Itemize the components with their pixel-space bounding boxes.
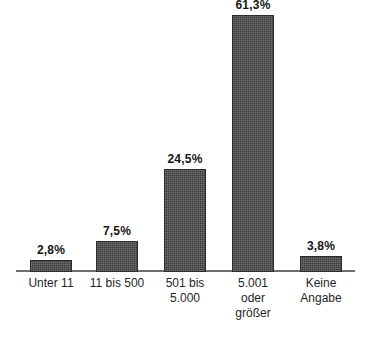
bar-value-label: 3,8% bbox=[290, 239, 352, 253]
category-label-line: Keine bbox=[283, 276, 359, 291]
bar-group: 61,3% bbox=[232, 2, 274, 272]
bar-group: 24,5% bbox=[164, 2, 206, 272]
category-label-line: oder bbox=[215, 291, 291, 306]
bar[interactable] bbox=[164, 169, 206, 272]
bar-group: 3,8% bbox=[300, 2, 342, 272]
category-label-line: Unter 11 bbox=[13, 276, 89, 291]
bar[interactable] bbox=[96, 241, 138, 272]
category-label-line: Angabe bbox=[283, 291, 359, 306]
category-label-4: KeineAngabe bbox=[283, 276, 359, 306]
plot-area: 2,8% 7,5% 24,5% 61,3% 3,8% bbox=[0, 0, 365, 272]
category-label-2: 501 bis5.000 bbox=[147, 276, 223, 306]
bar-value-label: 61,3% bbox=[222, 0, 284, 12]
bar-value-label: 2,8% bbox=[20, 243, 82, 257]
category-label-line: 5.000 bbox=[147, 291, 223, 306]
category-label-line: größer bbox=[215, 306, 291, 321]
bar-group: 2,8% bbox=[30, 2, 72, 272]
category-label-line: 5.001 bbox=[215, 276, 291, 291]
category-label-1: 11 bis 500 bbox=[79, 276, 155, 291]
bar[interactable] bbox=[30, 260, 72, 272]
bar-chart: 2,8% 7,5% 24,5% 61,3% 3,8% Unter 11 11 b… bbox=[0, 0, 365, 339]
bar-value-label: 24,5% bbox=[154, 152, 216, 166]
category-label-0: Unter 11 bbox=[13, 276, 89, 291]
bar-group: 7,5% bbox=[96, 2, 138, 272]
bar[interactable] bbox=[300, 256, 342, 272]
bar-value-label: 7,5% bbox=[86, 224, 148, 238]
bar[interactable] bbox=[232, 15, 274, 272]
category-label-line: 11 bis 500 bbox=[79, 276, 155, 291]
category-axis-labels: Unter 11 11 bis 500 501 bis5.000 5.001od… bbox=[0, 276, 365, 339]
category-label-3: 5.001odergrößer bbox=[215, 276, 291, 321]
category-label-line: 501 bis bbox=[147, 276, 223, 291]
